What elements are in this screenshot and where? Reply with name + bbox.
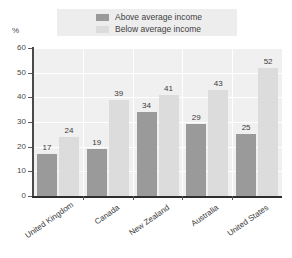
group-separator bbox=[182, 48, 183, 196]
y-axis-tick-label: 0 bbox=[2, 192, 26, 200]
x-axis-tick bbox=[182, 196, 183, 200]
legend-label-above: Above average income bbox=[115, 12, 202, 22]
plot-area bbox=[33, 48, 282, 196]
y-axis-tick-label-wrap: 10 bbox=[0, 167, 26, 175]
bar bbox=[59, 137, 79, 196]
y-axis-tick bbox=[28, 122, 32, 123]
x-axis-category-label: Australia bbox=[173, 203, 221, 240]
x-axis-category-label: New Zealand bbox=[123, 203, 171, 240]
bar-value-label: 52 bbox=[258, 58, 278, 66]
bar-value-label: 41 bbox=[159, 85, 179, 93]
y-axis-tick bbox=[28, 147, 32, 148]
bar bbox=[159, 95, 179, 196]
legend-item-above-average-income: Above average income bbox=[96, 11, 256, 23]
y-axis-tick bbox=[28, 171, 32, 172]
x-axis-category-label: Canada bbox=[73, 203, 121, 240]
y-axis-tick bbox=[28, 97, 32, 98]
bar-value-label: 43 bbox=[208, 80, 228, 88]
bar bbox=[186, 124, 206, 196]
x-axis-tick bbox=[232, 196, 233, 200]
y-axis-tick bbox=[28, 48, 32, 49]
bar-value-label: 29 bbox=[186, 114, 206, 122]
bar-chart: Above average income Below average incom… bbox=[0, 0, 292, 258]
bar-value-label: 24 bbox=[59, 127, 79, 135]
bar bbox=[208, 90, 228, 196]
y-axis-tick-label-wrap: 20 bbox=[0, 143, 26, 151]
y-axis-tick-label: 10 bbox=[2, 167, 26, 175]
bar-value-label: 34 bbox=[137, 102, 157, 110]
x-axis-tick bbox=[83, 196, 84, 200]
x-axis-line bbox=[32, 196, 282, 198]
bar bbox=[258, 68, 278, 196]
bar bbox=[236, 134, 256, 196]
group-separator bbox=[232, 48, 233, 196]
y-axis-tick bbox=[28, 196, 32, 197]
gridline bbox=[33, 73, 282, 74]
legend: Above average income Below average incom… bbox=[96, 11, 256, 35]
bar-value-label: 17 bbox=[37, 144, 57, 152]
legend-swatch-icon-below bbox=[96, 26, 109, 33]
x-axis-category-label: United Kingdom bbox=[23, 203, 71, 240]
y-axis-tick-label-wrap: 30 bbox=[0, 118, 26, 126]
legend-swatch-icon-above bbox=[96, 14, 109, 21]
y-axis-tick-label: 60 bbox=[2, 44, 26, 52]
bar bbox=[87, 149, 107, 196]
bar-value-label: 19 bbox=[87, 139, 107, 147]
y-axis-tick-label: 20 bbox=[2, 143, 26, 151]
x-axis-tick bbox=[133, 196, 134, 200]
bar bbox=[137, 112, 157, 196]
y-axis-unit-label: % bbox=[12, 26, 19, 35]
x-axis-category-label: United States bbox=[222, 203, 270, 240]
bar bbox=[37, 154, 57, 196]
gridline bbox=[33, 97, 282, 98]
y-axis-tick-label-wrap: 0 bbox=[0, 192, 26, 200]
legend-label-below: Below average income bbox=[115, 24, 201, 34]
y-axis-tick-label-wrap: 40 bbox=[0, 93, 26, 101]
gridline bbox=[33, 48, 282, 49]
y-axis-tick-label: 40 bbox=[2, 93, 26, 101]
chart-title-cropped bbox=[40, 0, 255, 6]
bar bbox=[109, 100, 129, 196]
bar-value-label: 25 bbox=[236, 124, 256, 132]
group-separator bbox=[83, 48, 84, 196]
y-axis-tick-label: 30 bbox=[2, 118, 26, 126]
bar-value-label: 39 bbox=[109, 90, 129, 98]
y-axis-line bbox=[32, 47, 34, 197]
y-axis-tick bbox=[28, 73, 32, 74]
y-axis-tick-label-wrap: 60 bbox=[0, 44, 26, 52]
group-separator bbox=[133, 48, 134, 196]
y-axis-tick-label: 50 bbox=[2, 69, 26, 77]
legend-item-below-average-income: Below average income bbox=[96, 23, 256, 35]
y-axis-tick-label-wrap: 50 bbox=[0, 69, 26, 77]
